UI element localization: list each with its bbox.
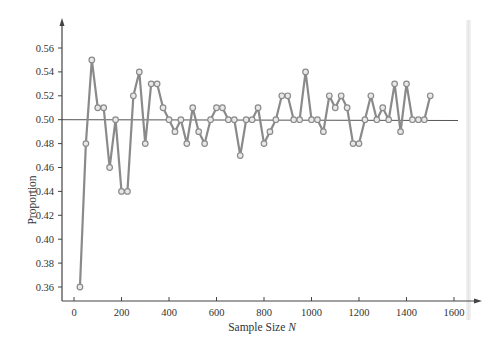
data-point-marker [208,117,214,123]
data-point-marker [303,69,309,75]
data-point-marker [226,117,232,123]
data-point-marker [327,93,333,99]
data-point-marker [398,129,404,135]
y-tick-label: 0.42 [36,210,54,221]
y-tick-label: 0.46 [36,162,54,173]
data-point-marker [279,93,285,99]
data-point-marker [101,105,107,111]
data-point-marker [232,117,238,123]
x-tick-label: 200 [114,307,130,318]
data-point-marker [273,117,279,123]
y-tick-label: 0.48 [36,138,54,149]
data-point-marker [356,141,362,147]
data-point-marker [214,105,220,111]
data-point-marker [416,117,422,123]
data-point-marker [362,117,368,123]
data-point-marker [321,129,327,135]
data-point-marker [249,117,255,123]
data-point-marker [297,117,303,123]
data-point-marker [285,93,291,99]
y-tick-label: 0.44 [36,186,55,197]
x-axis-title: Sample Size N [228,321,297,334]
x-axis-ticks: 02004006008001000120014001600 [71,297,464,318]
data-point-marker [374,117,380,123]
y-tick-label: 0.50 [36,114,54,125]
data-point-marker [255,105,261,111]
data-point-marker [350,141,356,147]
x-tick-label: 800 [256,307,272,318]
y-axis-title: Proportion [26,175,39,224]
data-point-marker [89,57,95,63]
data-point-marker [427,93,433,99]
data-point-marker [154,81,160,87]
y-axis-ticks: 0.360.380.400.420.440.460.480.500.520.54… [36,43,62,293]
data-point-marker [261,141,267,147]
data-point-marker [344,105,350,111]
data-point-marker [148,81,154,87]
data-point-marker [422,117,428,123]
data-point-marker [315,117,321,123]
y-tick-label: 0.52 [36,90,54,101]
data-point-marker [410,117,416,123]
data-point-marker [172,129,178,135]
data-point-marker [166,117,172,123]
data-point-marker [404,81,410,87]
x-tick-label: 600 [209,307,225,318]
data-point-marker [380,105,386,111]
y-tick-label: 0.54 [36,66,55,77]
y-tick-label: 0.40 [36,234,54,245]
data-point-marker [160,105,166,111]
y-tick-label: 0.38 [36,258,54,269]
x-axis-arrow-icon [474,299,482,304]
data-point-marker [137,69,143,75]
data-point-marker [368,93,374,99]
data-point-marker [386,117,392,123]
x-tick-label: 1400 [396,307,417,318]
data-point-marker [309,117,315,123]
x-tick-label: 1200 [349,307,370,318]
data-point-marker [190,105,196,111]
x-tick-label: 400 [161,307,177,318]
data-point-marker [243,117,249,123]
data-point-marker [113,117,119,123]
data-point-marker [83,141,89,147]
data-point-marker [237,153,243,159]
data-point-marker [107,165,113,171]
data-point-marker [267,129,273,135]
data-point-marker [220,105,226,111]
x-tick-label: 1000 [301,307,322,318]
data-point-marker [291,117,297,123]
data-point-marker [202,141,208,147]
proportion-line-chart: 0.360.380.400.420.440.460.480.500.520.54… [0,0,503,347]
data-point-marker [119,189,125,195]
data-point-marker [131,93,137,99]
axes [60,18,483,304]
data-point-marker [184,141,190,147]
data-point-marker [178,117,184,123]
data-point-marker [338,93,344,99]
y-tick-label: 0.36 [36,282,54,293]
x-tick-label: 0 [71,307,76,318]
data-point-marker [77,284,83,290]
data-point-marker [196,129,202,135]
proportion-series [77,57,433,290]
data-point-marker [392,81,398,87]
y-tick-label: 0.56 [36,43,54,54]
x-tick-label: 1600 [444,307,465,318]
data-point-marker [332,105,338,111]
data-point-marker [95,105,101,111]
y-axis-arrow-icon [60,18,65,26]
data-point-marker [142,141,148,147]
data-point-marker [125,189,131,195]
